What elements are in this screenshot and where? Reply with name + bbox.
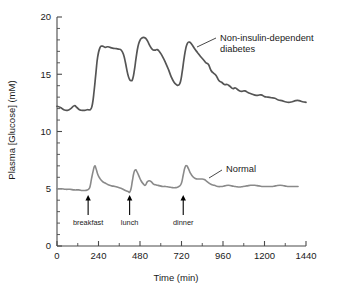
data-series <box>57 37 306 192</box>
x-axis-title: Time (min) <box>153 272 198 283</box>
y-tick-label: 5 <box>46 183 51 194</box>
axis-ticks <box>57 17 306 246</box>
meal-label-breakfast: breakfast <box>73 218 103 227</box>
chart-canvas: 05101520024048072096012001440 breakfastl… <box>0 0 337 287</box>
y-tick-label: 10 <box>40 126 51 137</box>
x-tick-label: 240 <box>91 250 107 261</box>
meal-annotations: breakfastlunchdinner <box>73 195 194 227</box>
normal-series-label: Normal <box>226 164 256 174</box>
meal-label-dinner: dinner <box>173 218 194 227</box>
meal-arrow-lunch: lunch <box>121 195 139 227</box>
y-axis-title: Plasma [Glucose] (mM) <box>6 80 17 179</box>
y-tick-label: 0 <box>46 240 51 251</box>
x-tick-label: 720 <box>174 250 190 261</box>
x-tick-label: 960 <box>215 250 231 261</box>
x-tick-label: 0 <box>54 250 59 261</box>
axes <box>57 17 306 246</box>
series-labels: Non-insulin-dependentdiabetesNormal <box>197 33 314 178</box>
x-tick-label: 480 <box>132 250 148 261</box>
meal-arrow-dinner: dinner <box>173 195 194 227</box>
series-curve-diabetes <box>57 37 306 110</box>
meal-arrow-breakfast: breakfast <box>73 195 103 227</box>
glucose-tolerance-chart: 05101520024048072096012001440 breakfastl… <box>0 0 337 287</box>
x-tick-label: 1440 <box>295 250 316 261</box>
diabetes-leader-line <box>197 38 216 47</box>
y-tick-label: 15 <box>40 69 51 80</box>
diabetes-series-label-line1: Non-insulin-dependent <box>220 33 314 43</box>
x-tick-label: 1200 <box>254 250 275 261</box>
diabetes-series-label-line2: diabetes <box>220 44 256 54</box>
normal-leader-line <box>209 170 222 178</box>
meal-label-lunch: lunch <box>121 218 139 227</box>
y-tick-label: 20 <box>40 11 51 22</box>
series-curve-normal <box>57 166 298 193</box>
